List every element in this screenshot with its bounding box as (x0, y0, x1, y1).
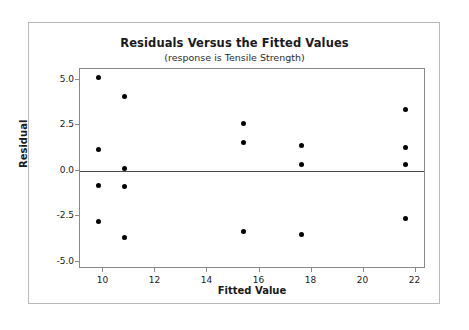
data-point (403, 216, 408, 221)
y-tick-label: 0.0 (60, 165, 74, 175)
x-tick-label: 18 (305, 275, 316, 285)
data-point (403, 107, 408, 112)
x-tick-label: 14 (201, 275, 212, 285)
chart-subtitle: (response is Tensile Strength) (0, 52, 469, 63)
data-point (241, 121, 246, 126)
x-axis-title: Fitted Value (79, 285, 425, 296)
data-point (299, 143, 304, 148)
data-point (96, 219, 101, 224)
data-point (96, 147, 101, 152)
data-point (96, 183, 101, 188)
y-tick-label: 2.5 (60, 119, 74, 129)
data-point (403, 162, 408, 167)
y-axis-title: Residual (18, 120, 29, 168)
data-point (241, 229, 246, 234)
data-point (122, 184, 127, 189)
plot-area (79, 68, 425, 268)
x-tick-label: 20 (357, 275, 368, 285)
data-point (299, 232, 304, 237)
y-tick-label: -5.0 (56, 256, 74, 266)
data-point (96, 75, 101, 80)
chart-title: Residuals Versus the Fitted Values (0, 36, 469, 50)
data-point (122, 166, 127, 171)
x-axis-tick-labels: 10121416182022 (79, 269, 425, 285)
data-point (122, 235, 127, 240)
zero-reference-line (80, 171, 424, 172)
x-tick-label: 10 (97, 275, 108, 285)
data-point (241, 140, 246, 145)
residual-plot: Residuals Versus the Fitted Values (resp… (0, 0, 469, 330)
data-point (122, 94, 127, 99)
y-tick-label: -2.5 (56, 210, 74, 220)
y-tick-label: 5.0 (60, 74, 74, 84)
x-tick-label: 22 (409, 275, 420, 285)
x-tick-label: 12 (149, 275, 160, 285)
x-tick-label: 16 (253, 275, 264, 285)
y-axis-tick-labels: 5.02.50.0-2.5-5.0 (40, 68, 74, 268)
data-point (299, 162, 304, 167)
data-point (403, 145, 408, 150)
